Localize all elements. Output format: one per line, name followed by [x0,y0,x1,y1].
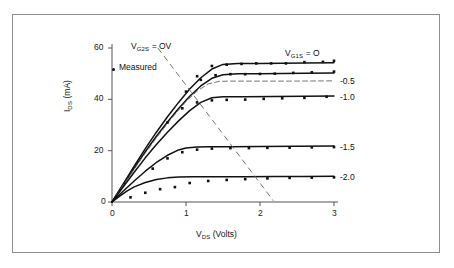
curves-group [112,63,334,202]
measured-point [229,73,232,76]
y-tick-label-20: 20 [94,145,103,155]
measured-point [188,182,191,185]
figure-container: 60 40 20 0 0 1 2 3 IDS (mA) VDS (Volts) … [0,0,454,268]
measured-point [303,96,306,99]
measured-point [225,63,228,66]
measured-point [259,73,262,76]
measured-point [240,63,243,66]
measured-point [303,61,306,64]
annotation-vg2s-suffix: = OV [149,41,171,51]
annotation-vg1s-sub: G1S [291,53,304,59]
measured-point [333,60,336,63]
curve-label-minus-2-0: -2.0 [340,172,355,182]
annotation-vg2s-sub: G2S [137,46,150,52]
y-axis-title-sub: DS [67,101,73,110]
measured-point [288,177,291,180]
annotation-vg2s: VG2S = OV [131,41,171,51]
y-tick-label-60: 60 [94,42,103,52]
measured-point [292,72,295,75]
measured-point [266,177,269,180]
measured-point [174,186,177,189]
curve--0-5-dashed [112,81,334,202]
measured-point [181,151,184,154]
measured-point [185,90,188,93]
measured-point [270,62,273,65]
curve-label-minus-1-0: -1.0 [340,92,355,102]
curve--2-0 [112,176,334,202]
measured-point [200,79,203,82]
measured-point [196,148,199,151]
measured-point [151,167,154,170]
x-axis-title: VDS (Volts) [196,229,237,239]
measured-point [333,146,336,149]
measured-point [325,95,328,98]
curve-label-minus-1-5: -1.5 [340,142,355,152]
measured-point [196,101,199,104]
measured-point [311,146,314,149]
measured-point [281,97,284,100]
x-axis-title-prefix: V [196,229,202,239]
y-axis-title: IDS (mA) [62,80,72,112]
measured-points-group [129,60,335,199]
measured-point [274,72,277,75]
y-tick-label-40: 40 [94,93,103,103]
measured-point [262,98,265,101]
measured-point [166,121,169,124]
measured-point [311,71,314,74]
x-tick-label-3: 3 [332,208,337,218]
measured-point [144,191,147,194]
measured-point [207,180,210,183]
measured-point [333,176,336,179]
x-tick-label-2: 2 [258,208,263,218]
annotation-vg2s-prefix: V [131,41,137,51]
measured-point [288,146,291,149]
measured-point [211,99,214,102]
x-axis-title-suffix: (Volts) [210,229,236,239]
measured-point [214,74,217,77]
measured-dot-marker [112,68,115,71]
measured-point [333,70,336,73]
measured-point [285,62,288,65]
y-tick-label-0: 0 [101,196,106,206]
measured-point [311,176,314,179]
x-tick-label-0: 0 [110,208,115,218]
measured-point [181,107,184,110]
measured-point [229,147,232,150]
measured-legend-label: Measured [119,62,157,72]
measured-point [244,98,247,101]
measured-point [225,99,228,102]
measured-point [211,147,214,150]
annotation-vg1s: VG1S = O [285,48,320,58]
measured-point [211,65,214,68]
measured-point [244,178,247,181]
measured-point [248,147,251,150]
annotation-vg1s-suffix: = O [303,48,319,58]
measured-point [225,179,228,182]
measured-point [266,147,269,150]
measured-point [166,157,169,160]
measured-point [159,188,162,191]
measured-point [196,75,199,78]
y-axis-title-suffix: (mA) [62,80,72,101]
measured-point [129,196,132,199]
chart-plot-area [0,0,454,268]
measured-point [255,62,258,65]
curve-label-minus-0-5: -0.5 [340,76,355,86]
measured-point [322,61,325,64]
annotation-vg1s-prefix: V [285,48,291,58]
curve-vg1s-o [112,63,334,202]
x-axis-title-sub: DS [202,234,211,240]
measured-point [244,73,247,76]
x-tick-label-1: 1 [184,208,189,218]
